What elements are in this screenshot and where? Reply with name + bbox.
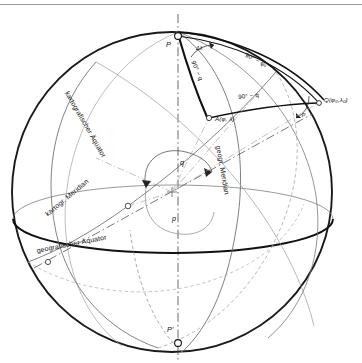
point-a-marker [206,115,211,120]
north-pole-marker [175,33,182,40]
south-pole-marker [175,340,182,347]
node-marker-lower-left [45,259,50,264]
node-markers [45,33,321,347]
label-rotation-q: q [180,159,184,166]
label-delta-lambda: Δλ [196,46,202,51]
label-vertex-angle-p: p [302,111,306,117]
node-marker-left [125,203,131,209]
label-point-a: A(φ, λ) [215,116,234,122]
label-south-pole: P' [167,326,173,333]
point-q-marker [317,101,322,106]
cartographic-meridian [28,72,276,262]
figure-root: P P' A(φ, λ) Q(φ₀,λ₀) Δλ 90° − φ₀ 90° − … [0,0,362,363]
label-rotation-p: p [172,215,176,222]
label-north-pole: P [166,41,171,48]
geographic-meridian-back [130,230,182,352]
geographic-meridian-front [178,32,241,352]
sphere-diagram-svg [0,0,362,363]
label-point-q: Q(φ₀,λ₀) [324,97,348,103]
cartographic-equator [51,62,297,348]
